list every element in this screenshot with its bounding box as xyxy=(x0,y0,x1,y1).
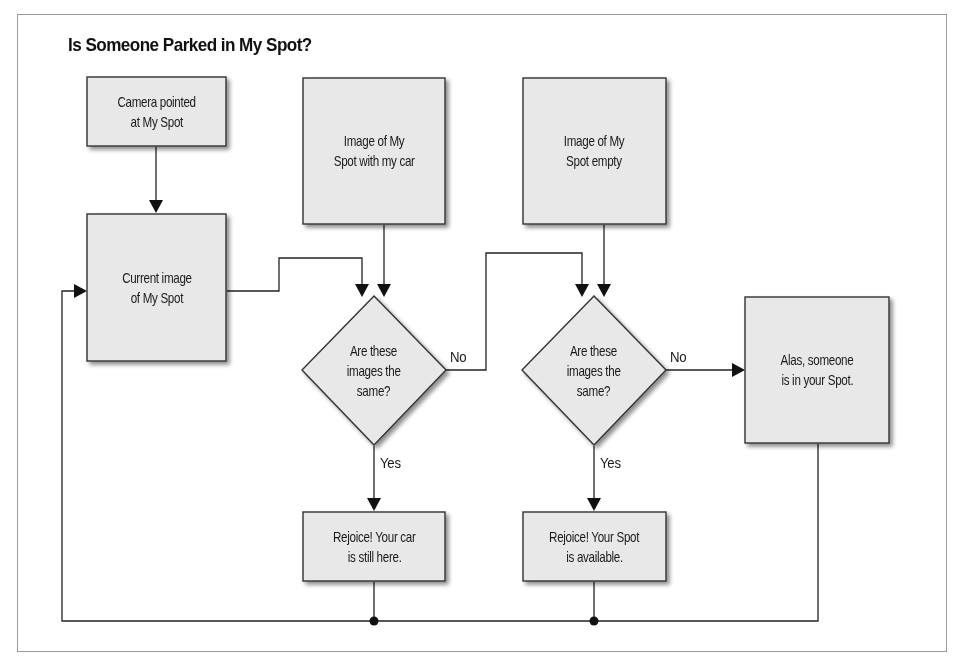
edge-current-to-decision1 xyxy=(227,258,362,291)
label-camera: Camera pointedat My Spot xyxy=(87,77,226,146)
junction-dot xyxy=(590,617,599,626)
junction-dot xyxy=(370,617,379,626)
label-decision-1: Are theseimages thesame? xyxy=(302,296,446,445)
label-decision-2: Are theseimages thesame? xyxy=(522,296,666,445)
arrowhead-icon xyxy=(587,498,601,511)
edge-label-decision2-no: No xyxy=(670,348,689,365)
arrowhead-icon xyxy=(367,498,381,511)
arrowhead-icon xyxy=(149,200,163,213)
label-rejoice-car: Rejoice! Your caris still here. xyxy=(303,512,445,581)
arrowhead-icon xyxy=(732,363,745,377)
label-rejoice-spot: Rejoice! Your Spotis available. xyxy=(523,512,666,581)
label-alas: Alas, someoneis in your Spot. xyxy=(745,297,889,443)
edge-label-decision1-yes: Yes xyxy=(380,454,404,471)
label-current-image: Current imageof My Spot xyxy=(87,214,226,361)
edge-label-decision1-no: No xyxy=(450,348,469,365)
arrowhead-icon xyxy=(74,284,87,298)
label-image-empty: Image of MySpot empty xyxy=(523,78,666,224)
label-image-with-car: Image of MySpot with my car xyxy=(303,78,445,224)
edge-label-decision2-yes: Yes xyxy=(600,454,624,471)
